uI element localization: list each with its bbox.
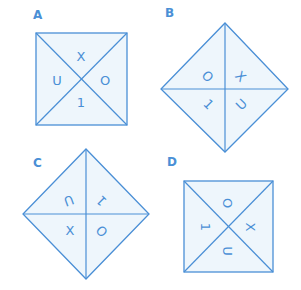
figure-a-symbol-bottom: 1 bbox=[77, 95, 85, 110]
figure-a-symbol-right: O bbox=[100, 73, 110, 88]
figure-c: U 1 O X bbox=[23, 149, 149, 279]
figure-d-symbol-right: X bbox=[243, 223, 258, 232]
figure-a-symbol-left: U bbox=[52, 73, 62, 88]
figure-c-symbol-bottom-left: X bbox=[66, 223, 75, 238]
figure-d-symbol-top: O bbox=[220, 198, 235, 208]
figures-canvas: X O 1 U O X U 1 U 1 O X O X U 1 bbox=[0, 0, 301, 290]
figure-a: X O 1 U bbox=[36, 33, 127, 125]
figure-a-symbol-top: X bbox=[77, 49, 86, 64]
figure-d: O X U 1 bbox=[184, 181, 273, 272]
figure-d-symbol-left: 1 bbox=[198, 223, 213, 231]
figure-b: O X U 1 bbox=[161, 23, 288, 152]
figure-d-symbol-bottom: U bbox=[220, 246, 235, 256]
